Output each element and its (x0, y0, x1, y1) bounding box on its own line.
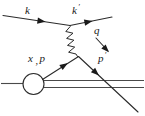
label-outgoing-parton-prime: ′ (105, 51, 107, 60)
label-outgoing-parton: p ′ (97, 51, 107, 64)
incoming-lepton-line (3, 16, 70, 26)
proton-blob (23, 74, 44, 95)
label-struck-parton-comma: , (36, 55, 39, 66)
label-incoming-lepton: k (25, 4, 31, 16)
label-outgoing-parton-base: p (97, 52, 104, 64)
outgoing-parton-line (79, 57, 139, 113)
label-photon-momentum: q (94, 24, 100, 36)
struck-parton-line (43, 57, 79, 80)
struck-parton-arrowhead (59, 60, 69, 70)
label-outgoing-lepton-prime: ′ (78, 3, 80, 12)
label-struck-parton-p: p (39, 52, 46, 64)
label-outgoing-lepton: k ′ (72, 3, 80, 16)
feynman-diagram-figure: k k ′ q x , p p ′ (0, 0, 145, 116)
feynman-diagram-canvas: k k ′ q x , p p ′ (0, 0, 145, 116)
label-struck-parton-x: x (27, 52, 33, 64)
outgoing-lepton-arrowhead (84, 18, 93, 26)
photon-propagator (66, 27, 78, 57)
label-struck-parton: x , p (27, 52, 46, 66)
